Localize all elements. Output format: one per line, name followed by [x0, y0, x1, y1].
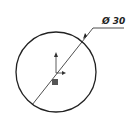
diameter-label[interactable]: Ø 30 [101, 16, 125, 26]
diameter-dimension-line[interactable] [32, 28, 93, 105]
origin-axes-icon [52, 52, 66, 85]
drawing-canvas: Ø 30 [0, 0, 131, 122]
